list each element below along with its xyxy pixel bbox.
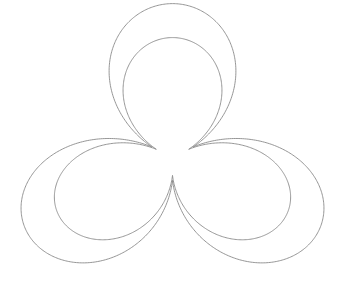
trefoil-diagram — [0, 0, 345, 292]
outer-strand-path — [21, 4, 324, 263]
figure-canvas — [0, 0, 345, 292]
inner-strand-path — [54, 38, 290, 240]
